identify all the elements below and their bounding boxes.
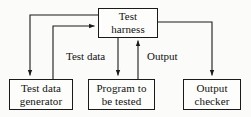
node-test-data-generator-line2: generator <box>20 95 62 108</box>
node-output-checker-line1: Output <box>196 82 227 95</box>
edge-harness-to-checker <box>158 22 212 75</box>
edge-label-output: Output <box>146 50 179 62</box>
node-program-under-test-line2: be tested <box>102 95 142 108</box>
diagram-canvas: Test harness Test data generator Program… <box>0 0 251 117</box>
node-output-checker[interactable]: Output checker <box>183 79 241 110</box>
node-program-under-test-line1: Program to <box>96 82 146 95</box>
node-test-harness-line2: harness <box>111 23 145 36</box>
node-test-data-generator-line1: Test data <box>21 82 61 95</box>
node-test-harness-line1: Test <box>119 10 138 23</box>
edge-label-test-data: Test data <box>65 50 106 62</box>
node-test-data-generator[interactable]: Test data generator <box>9 79 73 110</box>
edge-harness-to-generator <box>30 15 98 75</box>
node-program-under-test[interactable]: Program to be tested <box>88 79 155 110</box>
node-test-harness[interactable]: Test harness <box>98 8 158 38</box>
node-output-checker-line2: checker <box>195 95 230 108</box>
